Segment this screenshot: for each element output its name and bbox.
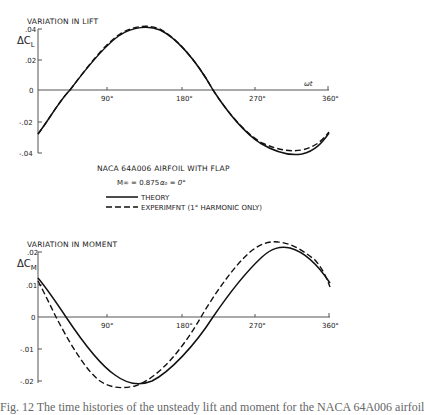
lift-ytick: 0 — [29, 87, 33, 95]
lift-ytick: -.02 — [19, 119, 33, 127]
experiment-legend-label: EXPERIMFNT (1° HARMONIC ONLY) — [141, 204, 262, 212]
moment-ytick: 0 — [31, 314, 35, 322]
lift-xtick: 90° — [101, 95, 113, 103]
omega-t-label: ωt — [304, 80, 313, 88]
lift-ytick: .04 — [25, 26, 37, 34]
moment-xtick: 270° — [249, 322, 266, 330]
moment-experiment-curve — [38, 242, 330, 388]
theory-legend-label: THEORY — [140, 194, 170, 202]
moment-xtick: 180° — [176, 322, 193, 330]
lift-ylabel: ΔCL — [17, 35, 35, 49]
lift-theory-curve — [38, 27, 329, 154]
lift-xtick: 270° — [249, 95, 266, 103]
moment-xtick: 360° — [322, 322, 339, 330]
figure-caption: Fig. 12 The time histories of the unstea… — [0, 400, 353, 415]
lift-xtick: 180° — [176, 95, 193, 103]
lift-chart-title: VARIATION IN LIFT — [27, 17, 98, 26]
moment-ytick: .02 — [27, 249, 38, 257]
alpha-label: α₀ = 0° — [160, 179, 186, 187]
legend: NACA 64A006 AIRFOIL WITH FLAP M∞ = 0.875… — [97, 164, 262, 212]
lift-experiment-curve — [38, 26, 329, 150]
lift-xtick: 360° — [322, 95, 339, 103]
moment-ytick: -.01 — [20, 346, 34, 354]
legend-title: NACA 64A006 AIRFOIL WITH FLAP — [97, 164, 230, 173]
mach-label: M∞ = 0.875 — [117, 179, 159, 187]
moment-ylabel: ΔCM — [17, 258, 37, 272]
moment-ytick: -.02 — [20, 378, 34, 386]
moment-chart: VARIATION IN MOMENT ΔCM .02 .01 0 -.01 -… — [17, 240, 339, 388]
lift-chart: VARIATION IN LIFT ΔCL .04 .02 0 -.02 -.0… — [17, 17, 339, 158]
moment-theory-curve — [38, 247, 330, 383]
lift-ytick: -.04 — [19, 150, 33, 158]
moment-ytick: .01 — [26, 282, 37, 290]
moment-chart-title: VARIATION IN MOMENT — [27, 240, 117, 249]
lift-ytick: .02 — [25, 57, 36, 65]
moment-xtick: 90° — [101, 322, 113, 330]
